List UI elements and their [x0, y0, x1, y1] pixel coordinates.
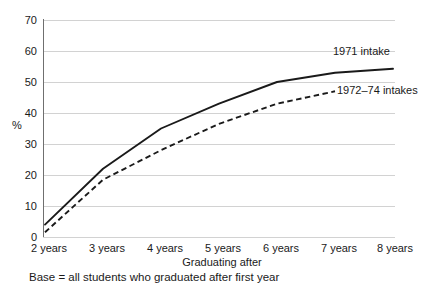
line-chart: 70 60 50 40 30 20 10 0 % 2 years 3 years…: [0, 0, 422, 287]
y-tick-label-40: 40: [25, 107, 37, 119]
series-line-1972-74-intakes: [45, 91, 335, 232]
y-tick-label-50: 50: [25, 76, 37, 88]
y-tick-labels: 70 60 50 40 30 20 10 0: [25, 14, 37, 243]
x-tick-labels: 2 years 3 years 4 years 5 years 6 years …: [31, 242, 414, 254]
x-tick-label-6-years: 6 years: [263, 242, 300, 254]
series-label-1972-74-intakes: 1972–74 intakes: [337, 84, 418, 96]
x-tick-label-7-years: 7 years: [321, 242, 358, 254]
x-axis-title: Graduating after: [182, 256, 262, 268]
chart-container: 70 60 50 40 30 20 10 0 % 2 years 3 years…: [0, 0, 422, 287]
x-tick-label-3-years: 3 years: [89, 242, 126, 254]
y-tick-label-20: 20: [25, 169, 37, 181]
y-tick-label-10: 10: [25, 200, 37, 212]
x-tick-label-2-years: 2 years: [31, 242, 68, 254]
y-tick-label-60: 60: [25, 45, 37, 57]
x-tick-label-5-years: 5 years: [205, 242, 242, 254]
y-tick-label-30: 30: [25, 138, 37, 150]
chart-footnote: Base = all students who graduated after …: [29, 271, 279, 283]
x-tick-label-4-years: 4 years: [147, 242, 184, 254]
y-tick-label-70: 70: [25, 14, 37, 26]
x-tick-label-8-years: 8 years: [377, 242, 414, 254]
series-label-1971-intake: 1971 intake: [333, 45, 390, 57]
y-axis-title: %: [12, 119, 22, 131]
